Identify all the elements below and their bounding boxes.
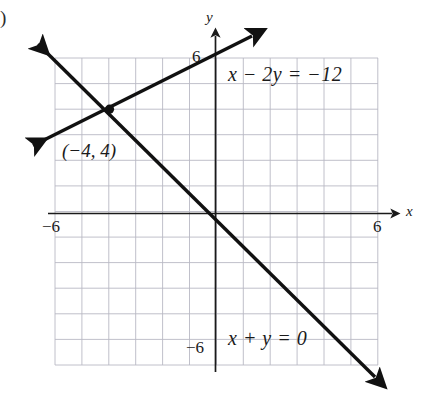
problem-number-mark: ) [0, 8, 6, 27]
x-axis-label: x [406, 204, 413, 219]
x-axis-tick-negative-6: −6 [42, 218, 60, 235]
equation-label-2: x + y = 0 [228, 328, 307, 348]
y-axis-tick-negative-6: −6 [186, 339, 204, 356]
equation-label-1: x − 2y = −12 [228, 64, 342, 84]
graph-svg [0, 0, 430, 408]
axis-lines [48, 36, 392, 372]
line-x-plus-y-equals-0 [38, 44, 375, 377]
intersection-point-label: (−4, 4) [62, 141, 116, 160]
line-x-minus-2y-equals-minus12 [33, 36, 252, 146]
intersection-point-dot [105, 105, 114, 114]
y-axis-label: y [206, 10, 213, 25]
x-axis-tick-positive-6: 6 [373, 218, 382, 235]
figure-canvas: ) y x 6 −6 −6 6 x − 2y = −12 x + y = 0 (… [0, 0, 430, 408]
y-axis-tick-positive-6: 6 [192, 48, 201, 65]
grid-lines [55, 58, 378, 365]
